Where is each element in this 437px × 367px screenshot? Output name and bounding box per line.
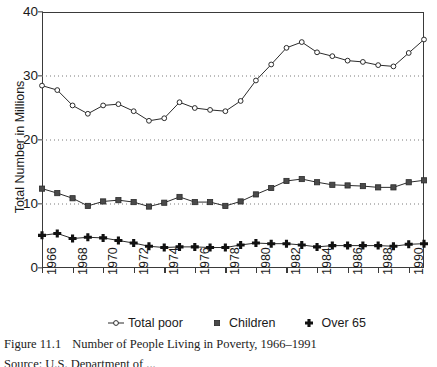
x-tick-mark [348, 268, 349, 273]
data-point-marker [99, 234, 107, 242]
data-point-marker [69, 235, 77, 243]
data-point-marker [252, 239, 260, 247]
x-tick-label: 1990 [413, 247, 426, 275]
data-point-marker [238, 99, 243, 104]
data-point-marker [330, 54, 335, 59]
data-point-marker [345, 183, 350, 188]
data-point-marker [315, 50, 320, 55]
data-point-marker [84, 233, 92, 241]
x-tick-label: 1970 [107, 247, 120, 275]
y-tick-label: 40 [23, 5, 38, 19]
poverty-line-chart-figure: 010203040 Total Number in Millions 19661… [0, 0, 437, 367]
data-point-marker [177, 100, 182, 105]
y-tick-label: 0 [30, 261, 38, 275]
x-tick-mark [225, 268, 226, 273]
data-point-marker [422, 37, 427, 42]
data-point-marker [254, 78, 259, 83]
data-point-marker [101, 103, 106, 108]
data-point-marker [162, 116, 167, 121]
data-point-marker [269, 62, 274, 67]
data-point-marker [360, 183, 365, 188]
data-point-marker [53, 229, 61, 237]
x-tick-mark [409, 268, 410, 273]
legend-item-over-65: Over 65 [301, 316, 365, 330]
data-point-marker [223, 109, 228, 114]
x-tick-label: 1972 [138, 247, 151, 275]
data-point-marker [376, 185, 381, 190]
figure-caption-text: Number of People Living in Poverty, 1966… [72, 337, 317, 351]
x-tick-label: 1968 [77, 247, 90, 275]
x-tick-label: 1986 [352, 247, 365, 275]
x-tick-mark [103, 268, 104, 273]
data-point-marker [284, 45, 289, 50]
x-tick-mark [73, 268, 74, 273]
legend-label: Children [229, 316, 276, 330]
data-point-marker [146, 204, 151, 209]
data-point-marker [207, 199, 212, 204]
x-tick-mark [317, 268, 318, 273]
data-point-marker [162, 200, 167, 205]
data-point-marker [284, 178, 289, 183]
x-tick-mark [134, 268, 135, 273]
data-point-marker [70, 196, 75, 201]
data-point-marker [360, 60, 365, 65]
figure-source-line: Source: U.S. Department of ... [4, 357, 434, 367]
data-point-marker [406, 180, 411, 185]
x-axis-ticks: 1966196819701972197419761978198019821984… [42, 268, 424, 314]
data-point-marker [101, 199, 106, 204]
plot-area [42, 12, 424, 268]
data-point-marker [116, 102, 121, 107]
legend-label: Over 65 [321, 316, 365, 330]
data-point-marker [208, 108, 213, 113]
x-tick-label: 1984 [321, 247, 334, 275]
data-point-marker [55, 191, 60, 196]
legend-label: Total poor [128, 316, 183, 330]
series-line [42, 179, 424, 207]
data-point-marker [192, 106, 197, 111]
legend-item-children: Children [209, 316, 276, 330]
data-point-marker [38, 231, 46, 239]
x-tick-mark [286, 268, 287, 273]
x-tick-mark [378, 268, 379, 273]
data-point-marker [330, 182, 335, 187]
data-point-marker [131, 199, 136, 204]
data-point-marker [269, 185, 274, 190]
data-point-marker [147, 118, 152, 123]
data-point-marker [314, 180, 319, 185]
data-point-marker [116, 198, 121, 203]
data-point-marker [238, 199, 243, 204]
x-tick-mark [256, 268, 257, 273]
data-point-marker [131, 109, 136, 114]
x-tick-label: 1978 [229, 247, 242, 275]
data-point-marker [192, 199, 197, 204]
x-tick-mark [195, 268, 196, 273]
data-point-marker [55, 88, 60, 93]
data-point-marker [376, 63, 381, 68]
data-point-marker [40, 83, 45, 88]
data-point-marker [406, 51, 411, 56]
filled-plus-marker-icon [301, 317, 317, 329]
y-axis-title: Total Number in Millions [13, 22, 27, 272]
data-point-marker [421, 178, 426, 183]
data-point-marker [391, 64, 396, 69]
filled-square-marker-icon [209, 317, 225, 329]
x-tick-label: 1974 [168, 247, 181, 275]
figure-caption: Figure 11.1Number of People Living in Po… [4, 337, 434, 352]
chart-canvas [42, 12, 424, 268]
x-tick-mark [164, 268, 165, 273]
data-point-marker [130, 239, 138, 247]
data-point-marker [223, 203, 228, 208]
x-tick-label: 1976 [199, 247, 212, 275]
data-point-marker [85, 111, 90, 116]
data-point-marker [85, 203, 90, 208]
chart-legend: Total poorChildrenOver 65 [108, 315, 368, 331]
data-point-marker [39, 186, 44, 191]
figure-number: Figure 11.1 [4, 337, 61, 351]
x-tick-label: 1980 [260, 247, 273, 275]
data-point-marker [114, 236, 122, 244]
data-point-marker [299, 176, 304, 181]
data-point-marker [177, 194, 182, 199]
x-tick-label: 1988 [382, 247, 395, 275]
data-point-marker [299, 40, 304, 45]
x-tick-label: 1966 [46, 247, 59, 275]
